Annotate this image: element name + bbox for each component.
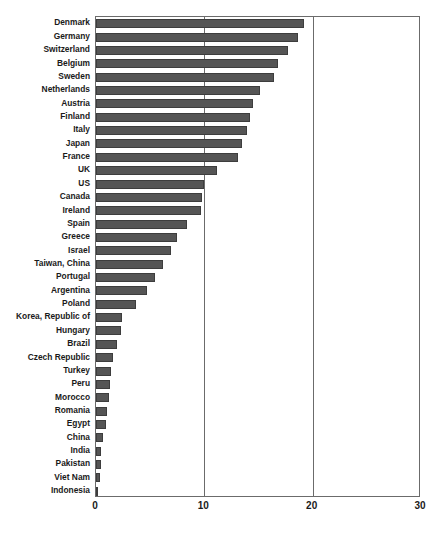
- bar-row: [96, 244, 419, 257]
- bar: [96, 193, 202, 202]
- bar-row: [96, 364, 419, 377]
- bar-row: [96, 137, 419, 150]
- bar: [96, 46, 288, 55]
- y-axis-tick-label: Sweden: [0, 72, 90, 80]
- bar-row: [96, 271, 419, 284]
- bar-row: [96, 231, 419, 244]
- bar: [96, 273, 155, 282]
- y-axis-tick-label: France: [0, 152, 90, 160]
- x-axis-tick-label: 30: [414, 501, 425, 511]
- bar: [96, 300, 136, 309]
- y-axis-tick-label: Indonesia: [0, 486, 90, 494]
- y-axis-tick-label: Israel: [0, 246, 90, 254]
- y-axis-tick-label: Romania: [0, 406, 90, 414]
- bar-row: [96, 204, 419, 217]
- y-axis-tick-label: Poland: [0, 299, 90, 307]
- bar: [96, 487, 98, 496]
- y-axis-tick-label: US: [0, 179, 90, 187]
- bar-row: [96, 311, 419, 324]
- bar: [96, 73, 274, 82]
- bar: [96, 153, 238, 162]
- bar: [96, 33, 298, 42]
- bar-row: [96, 84, 419, 97]
- y-axis-tick-label: Taiwan, China: [0, 259, 90, 267]
- y-axis-tick-label: Czech Republic: [0, 353, 90, 361]
- y-axis-tick-label: China: [0, 433, 90, 441]
- y-axis-tick-label: Hungary: [0, 326, 90, 334]
- y-axis-tick-label: Belgium: [0, 59, 90, 67]
- y-axis-tick-label: Pakistan: [0, 459, 90, 467]
- bar-row: [96, 191, 419, 204]
- bar: [96, 473, 100, 482]
- y-axis-tick-label: Turkey: [0, 366, 90, 374]
- bar-row: [96, 458, 419, 471]
- bar-row: [96, 30, 419, 43]
- y-axis-tick-label: Finland: [0, 112, 90, 120]
- y-axis-labels: DenmarkGermanySwitzerlandBelgiumSwedenNe…: [0, 16, 90, 497]
- bar: [96, 353, 113, 362]
- bar-row: [96, 164, 419, 177]
- x-axis-tick-label: 0: [92, 501, 98, 511]
- bar-row: [96, 445, 419, 458]
- bar: [96, 340, 117, 349]
- bar-row: [96, 151, 419, 164]
- bar: [96, 139, 242, 148]
- y-axis-tick-label: Portugal: [0, 272, 90, 280]
- bar: [96, 286, 147, 295]
- y-axis-tick-label: Denmark: [0, 18, 90, 26]
- bar-row: [96, 378, 419, 391]
- bar: [96, 166, 217, 175]
- x-axis-labels: 0102030: [0, 501, 443, 521]
- bar: [96, 393, 109, 402]
- bar-row: [96, 391, 419, 404]
- bar: [96, 86, 260, 95]
- x-axis-tick-label: 10: [198, 501, 209, 511]
- bar-row: [96, 471, 419, 484]
- y-axis-tick-label: Austria: [0, 99, 90, 107]
- bar-row: [96, 97, 419, 110]
- bar-row: [96, 324, 419, 337]
- bar-row: [96, 111, 419, 124]
- bar: [96, 433, 103, 442]
- bar-row: [96, 404, 419, 417]
- bar-rows: [96, 17, 419, 496]
- y-axis-tick-label: Brazil: [0, 339, 90, 347]
- bar-row: [96, 485, 419, 498]
- plot-area: [95, 16, 420, 497]
- bar: [96, 326, 121, 335]
- y-axis-tick-label: Germany: [0, 32, 90, 40]
- y-axis-tick-label: Peru: [0, 379, 90, 387]
- y-axis-tick-label: Spain: [0, 219, 90, 227]
- bar: [96, 380, 110, 389]
- bar-chart: DenmarkGermanySwitzerlandBelgiumSwedenNe…: [0, 0, 443, 536]
- bar-row: [96, 338, 419, 351]
- bar: [96, 260, 163, 269]
- bar: [96, 59, 278, 68]
- y-axis-tick-label: Italy: [0, 125, 90, 133]
- y-axis-tick-label: Japan: [0, 139, 90, 147]
- bar-row: [96, 70, 419, 83]
- y-axis-tick-label: Netherlands: [0, 85, 90, 93]
- y-axis-tick-label: UK: [0, 165, 90, 173]
- bar: [96, 220, 187, 229]
- bar: [96, 460, 101, 469]
- bar: [96, 313, 122, 322]
- y-axis-tick-label: Egypt: [0, 419, 90, 427]
- bar-row: [96, 57, 419, 70]
- bar: [96, 180, 204, 189]
- bar-row: [96, 431, 419, 444]
- bar: [96, 246, 171, 255]
- bar: [96, 407, 107, 416]
- bar-row: [96, 44, 419, 57]
- bar-row: [96, 298, 419, 311]
- bar-row: [96, 124, 419, 137]
- bar: [96, 420, 106, 429]
- bar: [96, 233, 177, 242]
- y-axis-tick-label: Greece: [0, 232, 90, 240]
- bar-row: [96, 17, 419, 30]
- y-axis-tick-label: India: [0, 446, 90, 454]
- bar: [96, 367, 111, 376]
- y-axis-tick-label: Canada: [0, 192, 90, 200]
- bar: [96, 99, 253, 108]
- bar-row: [96, 258, 419, 271]
